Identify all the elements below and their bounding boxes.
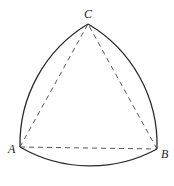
arc-ab bbox=[20, 147, 157, 166]
vertex-label-b: B bbox=[161, 147, 169, 161]
dashed-side-ab bbox=[20, 147, 157, 149]
dashed-side-bc bbox=[88, 24, 157, 149]
vertex-label-a: A bbox=[7, 142, 16, 156]
dashed-side-ac bbox=[20, 24, 88, 147]
vertex-label-c: C bbox=[84, 7, 93, 21]
reuleaux-diagram: C A B bbox=[0, 0, 174, 186]
